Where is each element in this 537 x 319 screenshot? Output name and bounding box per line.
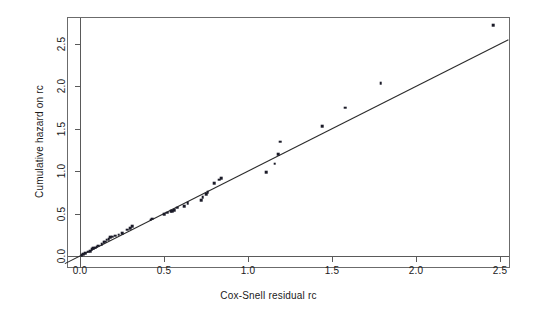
scatter-point [131, 225, 134, 228]
scatter-point [213, 182, 216, 185]
scatter-point [200, 199, 203, 202]
x-tick-label-2.5: 2.5 [493, 265, 508, 276]
scatter-point [173, 209, 176, 212]
y-tick-0.0 [75, 256, 80, 257]
scatter-point [277, 153, 280, 156]
y-axis-title: Cumulative hazard on rc [34, 62, 45, 222]
scatter-point [117, 234, 120, 237]
plot-frame [67, 17, 510, 268]
scatter-point [206, 191, 209, 194]
x-tick-2.5 [500, 257, 501, 262]
y-tick-label-2.0: 2.0 [56, 75, 67, 97]
x-axis-title: Cox-Snell residual rc [0, 290, 537, 301]
y-tick-label-2.5: 2.5 [56, 33, 67, 55]
chart-page: 0.00.51.01.52.02.5 0.00.51.01.52.02.5 Co… [0, 0, 537, 319]
scatter-point [220, 177, 223, 180]
scatter-point [186, 202, 189, 205]
x-tick-0.5 [164, 257, 165, 262]
scatter-point [492, 24, 495, 27]
scatter-point [84, 252, 87, 255]
x-tick-2.0 [416, 257, 417, 262]
x-axis-line [68, 256, 509, 257]
y-tick-label-1.5: 1.5 [56, 118, 67, 140]
x-tick-label-2.0: 2.0 [409, 265, 424, 276]
y-tick-label-0.5: 0.5 [56, 203, 67, 225]
scatter-point [114, 234, 117, 237]
scatter-point [111, 235, 114, 238]
scatter-point [166, 211, 169, 214]
y-tick-1.0 [75, 171, 80, 172]
x-tick-label-0.5: 0.5 [157, 265, 172, 276]
x-tick-0.0 [80, 257, 81, 262]
x-tick-label-1.5: 1.5 [325, 265, 340, 276]
scatter-point [121, 232, 124, 235]
y-tick-1.5 [75, 129, 80, 130]
scatter-point [274, 162, 277, 165]
x-tick-1.0 [248, 257, 249, 262]
scatter-point [279, 140, 282, 143]
scatter-point [265, 171, 268, 174]
y-axis-line [80, 18, 81, 268]
scatter-point [176, 206, 179, 209]
y-tick-label-1.0: 1.0 [56, 160, 67, 182]
y-tick-label-0.0: 0.0 [56, 245, 67, 267]
scatter-point [151, 217, 154, 220]
scatter-point [379, 82, 382, 85]
y-tick-2.5 [75, 44, 80, 45]
scatter-point [126, 228, 129, 231]
x-tick-1.5 [332, 257, 333, 262]
scatter-point [344, 106, 347, 109]
scatter-point [183, 205, 186, 208]
scatter-point [97, 245, 100, 248]
scatter-point [163, 213, 166, 216]
x-tick-label-1.0: 1.0 [241, 265, 256, 276]
scatter-point [201, 196, 204, 199]
x-tick-label-0.0: 0.0 [73, 265, 88, 276]
y-tick-2.0 [75, 86, 80, 87]
y-tick-0.5 [75, 214, 80, 215]
scatter-point [321, 125, 324, 128]
